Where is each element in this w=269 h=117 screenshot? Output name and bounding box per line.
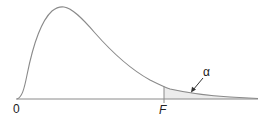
critical-value-label: F xyxy=(159,103,167,117)
origin-label: 0 xyxy=(13,102,20,116)
f-distribution-diagram: 0 F α xyxy=(0,0,269,117)
alpha-label: α xyxy=(203,65,210,79)
density-curve xyxy=(17,7,258,99)
alpha-pointer-arrow xyxy=(193,78,203,90)
